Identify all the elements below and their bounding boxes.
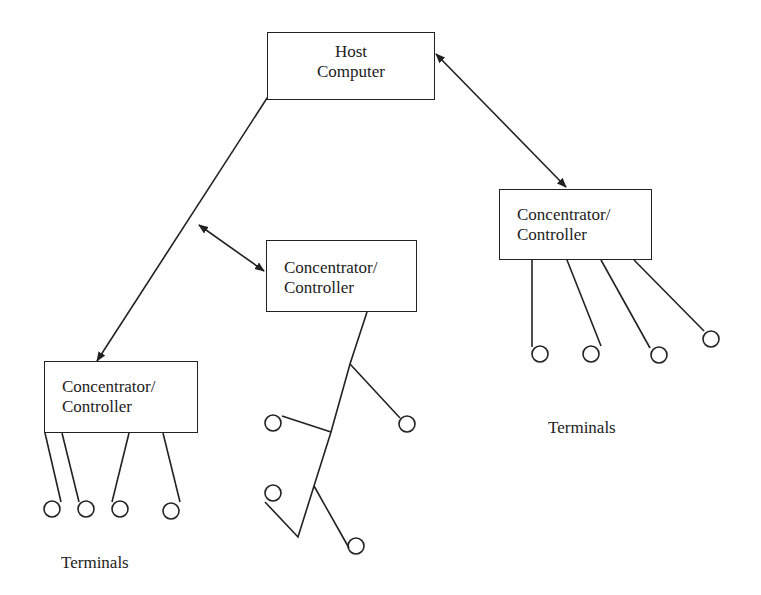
terminal-icon — [348, 538, 364, 554]
concentrator-left-line1: Concentrator/ — [62, 377, 197, 397]
concentrator-right-line1: Concentrator/ — [517, 205, 651, 225]
concentrator-left-box: Concentrator/ Controller — [44, 361, 198, 433]
terminal-icon — [78, 501, 94, 517]
terminal-icon — [44, 501, 60, 517]
terminal-icon — [532, 346, 548, 362]
link-trunk-middle — [199, 225, 264, 271]
terminal-icon — [651, 347, 667, 363]
concentrator-middle-line2: Controller — [284, 278, 416, 298]
host-line1: Host — [268, 42, 434, 62]
host-computer-box: Host Computer — [267, 32, 435, 100]
terminal-icon — [399, 416, 415, 432]
terminal-icon — [265, 415, 281, 431]
link-host-left — [97, 78, 280, 361]
terminal-icon — [112, 501, 128, 517]
terminal-icon — [163, 503, 179, 519]
concentrator-left-line2: Controller — [62, 397, 197, 417]
concentrator-right-line2: Controller — [517, 225, 651, 245]
link-host-right — [436, 54, 566, 187]
terminal-icon — [265, 485, 281, 501]
concentrator-middle-box: Concentrator/ Controller — [266, 240, 417, 312]
terminals-label-left: Terminals — [61, 553, 129, 573]
terminal-icon — [583, 346, 599, 362]
terminal-icon — [703, 331, 719, 347]
terminals-label-right: Terminals — [548, 418, 616, 438]
concentrator-right-box: Concentrator/ Controller — [499, 189, 652, 260]
concentrator-middle-line1: Concentrator/ — [284, 258, 416, 278]
host-line2: Computer — [268, 62, 434, 82]
